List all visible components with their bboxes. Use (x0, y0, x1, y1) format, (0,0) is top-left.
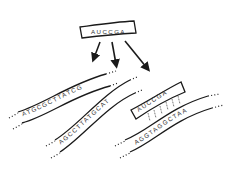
arrows (94, 41, 147, 68)
dna-strand-3: AGGTAGGCTAA (115, 94, 224, 158)
hybridization-diagram: AUCCGA ATGCGCTTATCG AGCCTTATGCAT (0, 0, 235, 181)
arrow-3 (125, 41, 147, 68)
probe-label: AUCCGA (91, 28, 126, 35)
probe-rna: AUCCGA (80, 21, 136, 38)
arrow-1 (94, 42, 100, 58)
arrow-2 (112, 42, 116, 64)
dna-strand-2: AGCCTTATGCAT (46, 77, 142, 158)
